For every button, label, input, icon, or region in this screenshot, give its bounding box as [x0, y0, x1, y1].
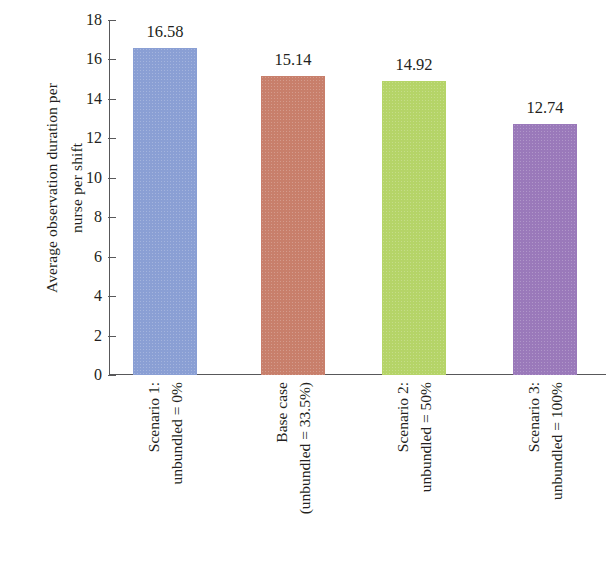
- y-axis-tick-label: 4: [94, 285, 102, 307]
- x-axis-category-label-line: (unbundled = 33.5%): [293, 382, 316, 514]
- bar-value-label: 15.14: [274, 50, 311, 70]
- plot-area: 16.5815.1414.9212.74: [109, 20, 606, 375]
- x-axis-category-label-line: Scenario 1:: [142, 382, 165, 452]
- y-axis-title-line-1: Average observation duration per: [39, 83, 64, 293]
- bar: [133, 48, 197, 375]
- y-axis-tick-mark: [108, 375, 116, 376]
- x-axis-category-label: Scenario 1:unbundled = 0%: [143, 382, 187, 567]
- y-axis-title-line-2: nurse per shift: [64, 143, 89, 233]
- y-axis-tick-label: 2: [94, 325, 102, 347]
- bar-value-label: 14.92: [395, 55, 432, 75]
- bar-value-label: 16.58: [146, 22, 183, 42]
- bar-group: 15.14: [261, 20, 325, 375]
- x-axis-category-label-line: Scenario 2:: [391, 382, 414, 452]
- bar-group: 14.92: [382, 20, 446, 375]
- x-axis-category-label-line: unbundled = 100%: [545, 382, 568, 500]
- x-axis-category-label-line: unbundled = 0%: [165, 382, 188, 485]
- x-axis-category-label-line: Base case: [270, 382, 293, 443]
- bar: [513, 124, 577, 375]
- y-axis-tick-label: 0: [94, 364, 102, 386]
- x-axis-category-label-line: Scenario 3:: [522, 382, 545, 452]
- bar-group: 16.58: [133, 20, 197, 375]
- bar-chart: Average observation duration per nurse p…: [0, 0, 606, 567]
- x-axis-category-label-line: unbundled = 50%: [414, 382, 437, 492]
- y-axis-tick-label: 8: [94, 206, 102, 228]
- bar: [261, 76, 325, 375]
- bar: [382, 81, 446, 375]
- x-axis-category-label: Scenario 3:unbundled = 100%: [523, 382, 567, 567]
- y-axis-title: Average observation duration per nurse p…: [38, 28, 90, 348]
- x-axis-category-label: Base case(unbundled = 33.5%): [271, 382, 315, 567]
- y-axis-tick-label: 6: [94, 246, 102, 268]
- bar-value-label: 12.74: [526, 98, 563, 118]
- bar-group: 12.74: [513, 20, 577, 375]
- x-axis-category-label: Scenario 2:unbundled = 50%: [392, 382, 436, 567]
